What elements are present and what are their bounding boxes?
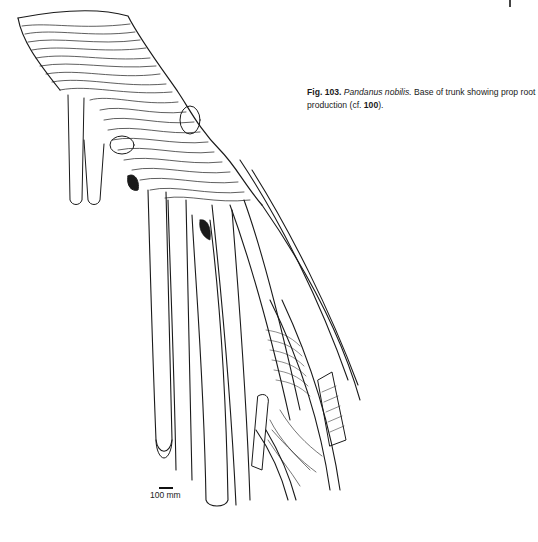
caption-closing: ). <box>378 100 383 110</box>
scale-bar-line <box>159 487 173 489</box>
trunk-prop-root-illustration <box>0 0 538 542</box>
book-page: Fig. 103. Pandanus nobilis. Base of trun… <box>0 0 538 542</box>
species-name: Pandanus nobilis. <box>344 87 412 97</box>
figure-reference: 100 <box>364 100 378 110</box>
caption-description: Base of trunk showing prop root producti… <box>307 87 535 110</box>
figure-number: Fig. 103. <box>307 87 341 97</box>
figure-caption: Fig. 103. Pandanus nobilis. Base of trun… <box>307 86 538 111</box>
scale-bar-label: 100 mm <box>150 490 181 500</box>
